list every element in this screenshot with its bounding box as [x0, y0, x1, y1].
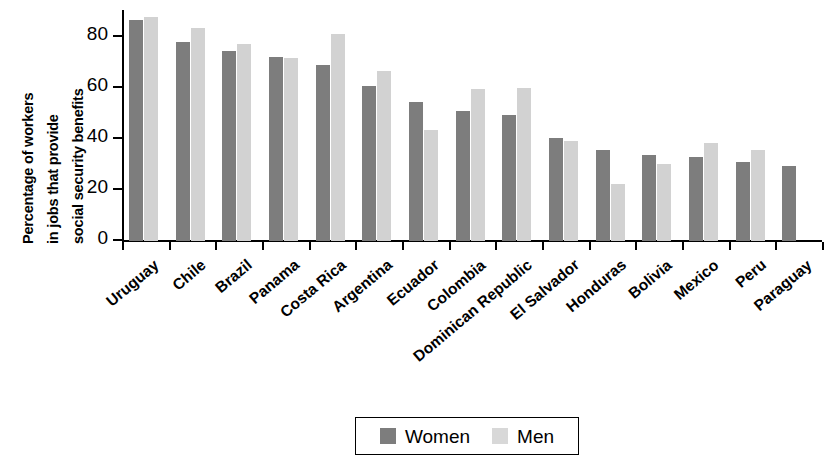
x-axis-label: Peru — [732, 256, 770, 292]
chart-legend: Women Men — [355, 417, 579, 455]
x-axis-label: Mexico — [670, 256, 722, 304]
legend-label-women: Women — [405, 427, 470, 446]
legend-swatch-women-icon — [380, 428, 396, 444]
x-axis-label: Bolivia — [625, 256, 676, 302]
legend-item-men: Men — [492, 427, 554, 446]
legend-swatch-men-icon — [492, 428, 508, 444]
x-axis-label: Uruguay — [103, 256, 163, 310]
bar-chart-figure: Percentage of workers in jobs that provi… — [0, 0, 826, 460]
x-axis-labels: UruguayChileBrazilPanamaCosta RicaArgent… — [0, 0, 826, 460]
legend-item-women: Women — [380, 427, 470, 446]
legend-label-men: Men — [517, 427, 554, 446]
x-axis-label: Chile — [168, 256, 209, 294]
